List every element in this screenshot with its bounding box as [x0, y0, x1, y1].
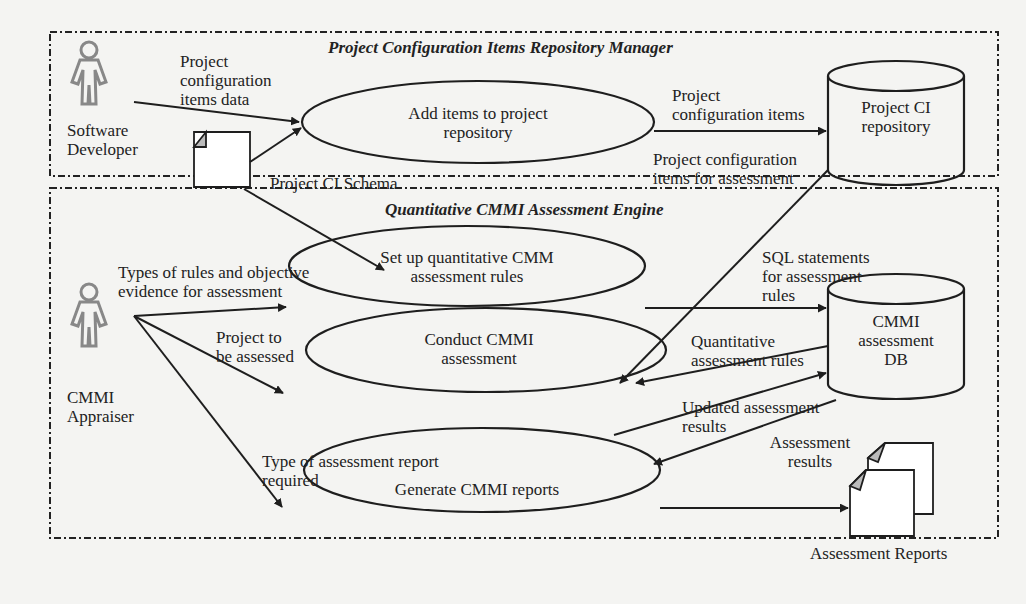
- arrow-schema-to-add: [250, 128, 301, 162]
- flow-label-ci-data: Projectconfigurationitems data: [180, 52, 272, 109]
- use-case-label-add-items: Add items to projectrepository: [378, 104, 578, 142]
- document-label-schema: Project CI Schema: [270, 174, 397, 193]
- project-ci-schema-document-icon: [194, 132, 250, 187]
- datastore-label-cmmi-db: CMMIassessmentDB: [840, 312, 952, 369]
- cmmi-appraiser-actor-icon: [72, 284, 106, 346]
- flow-label-sql: SQL statementsfor assessmentrules: [762, 248, 870, 305]
- flow-label-project-assessed: Project tobe assessed: [216, 328, 294, 366]
- actor-label-developer: SoftwareDeveloper: [67, 121, 138, 159]
- document-label-reports: Assessment Reports: [810, 544, 947, 563]
- assessment-reports-document-icon: [850, 443, 933, 536]
- flow-label-ci-for-assessment: Project configurationitems for assessmen…: [653, 150, 797, 188]
- package-title-repository-manager: Project Configuration Items Repository M…: [328, 38, 673, 57]
- flow-label-ci-items: Projectconfiguration items: [672, 86, 805, 124]
- package-title-assessment-engine: Quantitative CMMI Assessment Engine: [385, 200, 664, 219]
- flow-label-quant-rules: Quantitativeassessment rules: [691, 332, 804, 370]
- actor-label-appraiser: CMMIAppraiser: [67, 388, 134, 426]
- software-developer-actor-icon: [72, 42, 106, 104]
- use-case-label-setup-rules: Set up quantitative CMMassessment rules: [362, 248, 572, 286]
- datastore-label-project-ci: Project CIrepository: [846, 98, 946, 136]
- flow-label-assessment-results: Assessmentresults: [760, 433, 860, 471]
- use-case-label-conduct: Conduct CMMIassessment: [394, 330, 564, 368]
- arrow-rule-types: [134, 307, 286, 316]
- diagram-canvas: [0, 0, 1026, 604]
- flow-label-report-type: Type of assessment reportrequired: [262, 452, 439, 490]
- flow-label-updated-results: Updated assessmentresults: [682, 398, 819, 436]
- flow-label-rule-types: Types of rules and objectiveevidence for…: [118, 263, 309, 301]
